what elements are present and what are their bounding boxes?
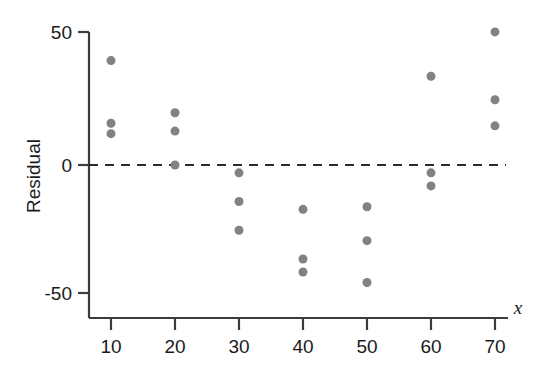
x-tick-label-30: 30 bbox=[228, 336, 249, 357]
scatter-plot-canvas: 50 0 -50 10 20 30 40 50 60 70 Residual x bbox=[0, 0, 544, 372]
x-tick-label-70: 70 bbox=[484, 336, 505, 357]
data-point bbox=[107, 119, 116, 128]
x-axis-title: x bbox=[513, 297, 523, 318]
data-point bbox=[171, 161, 180, 170]
data-point-group bbox=[107, 27, 500, 287]
data-point bbox=[491, 27, 500, 36]
data-point bbox=[363, 202, 372, 211]
data-point bbox=[107, 129, 116, 138]
x-axis-ticks bbox=[111, 318, 495, 330]
residual-plot-figure: 50 0 -50 10 20 30 40 50 60 70 Residual x bbox=[0, 0, 544, 372]
data-point bbox=[491, 121, 500, 130]
data-point bbox=[427, 72, 436, 81]
data-point bbox=[235, 226, 244, 235]
data-point bbox=[491, 95, 500, 104]
data-point bbox=[235, 168, 244, 177]
x-tick-label-10: 10 bbox=[100, 336, 121, 357]
data-point bbox=[171, 108, 180, 117]
data-point bbox=[363, 236, 372, 245]
data-point bbox=[107, 56, 116, 65]
y-tick-label-minus50: -50 bbox=[45, 283, 72, 304]
data-point bbox=[235, 197, 244, 206]
data-point bbox=[427, 168, 436, 177]
x-tick-label-60: 60 bbox=[420, 336, 441, 357]
y-axis-title: Residual bbox=[23, 139, 44, 213]
data-point bbox=[171, 127, 180, 136]
x-tick-label-50: 50 bbox=[356, 336, 377, 357]
data-point bbox=[299, 254, 308, 263]
data-point bbox=[427, 181, 436, 190]
data-point bbox=[363, 278, 372, 287]
y-tick-label-0: 0 bbox=[61, 155, 72, 176]
data-point bbox=[299, 205, 308, 214]
data-point bbox=[299, 268, 308, 277]
y-axis-ticks bbox=[78, 32, 89, 293]
y-tick-label-50: 50 bbox=[51, 22, 72, 43]
x-tick-label-20: 20 bbox=[164, 336, 185, 357]
x-tick-label-40: 40 bbox=[292, 336, 313, 357]
